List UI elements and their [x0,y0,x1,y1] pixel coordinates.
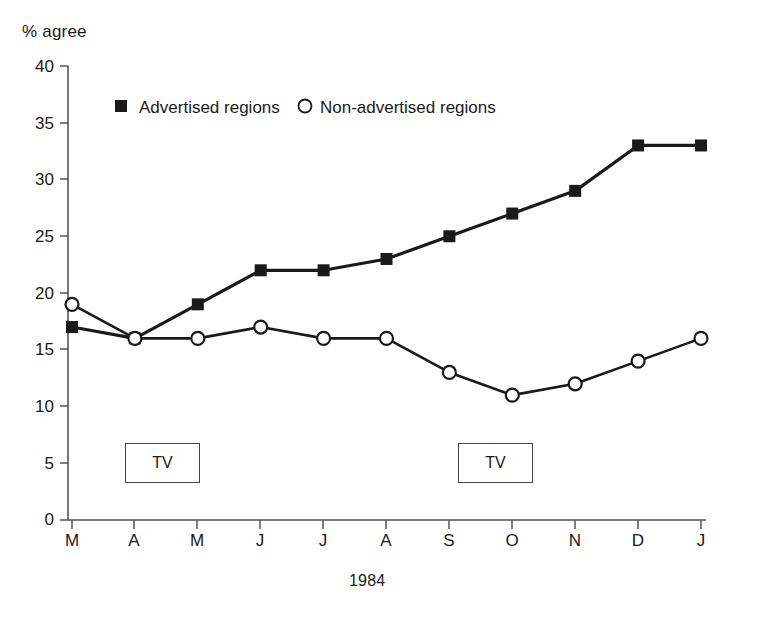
series-non-advertised [66,298,708,402]
data-point-marker-circle [317,332,330,345]
data-point-marker-square [66,321,78,333]
data-point-marker-square [318,264,330,276]
data-point-marker-circle [191,332,204,345]
series-advertised [66,139,707,344]
data-point-marker-square [569,185,581,197]
y-tick-marks [60,66,68,520]
data-point-marker-square [192,298,204,310]
series-line [72,304,701,395]
data-point-marker-circle [506,389,519,402]
data-point-marker-square [443,230,455,242]
data-point-marker-circle [443,366,456,379]
series-layer [66,139,708,401]
data-point-marker-square [255,264,267,276]
chart-container: % agree 1984 40 35 30 25 20 15 10 5 0 M … [0,0,758,622]
data-point-marker-circle [632,355,645,368]
data-point-marker-square [506,208,518,220]
data-point-marker-square [632,139,644,151]
data-point-marker-circle [380,332,393,345]
legend-marker-open-circle [299,100,312,113]
x-tick-marks [72,520,701,529]
data-point-marker-square [381,253,393,265]
plot-area [0,0,758,622]
data-point-marker-circle [569,377,582,390]
data-point-marker-circle [66,298,79,311]
data-point-marker-circle [254,321,267,334]
data-point-marker-circle [128,332,141,345]
legend-marker-filled-square [115,100,127,112]
data-point-marker-circle [695,332,708,345]
data-point-marker-square [695,139,707,151]
series-line [72,145,701,338]
